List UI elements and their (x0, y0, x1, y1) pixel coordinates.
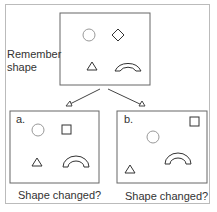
arrow-b (108, 89, 142, 105)
circle-icon (83, 29, 95, 41)
arrow-a (68, 89, 100, 105)
diagram-canvas (0, 0, 217, 212)
panel-b-label: b. (124, 113, 133, 126)
panel-a-caption: Shape changed? (18, 189, 101, 201)
remember-label: Remember shape (7, 48, 61, 74)
arch-icon (63, 156, 89, 167)
panel-b-caption: Shape changed? (125, 190, 208, 202)
triangle-icon (87, 62, 97, 70)
diamond-icon (112, 29, 124, 41)
circle-icon (32, 124, 44, 136)
panel-a-label: a. (16, 113, 25, 126)
square-icon (62, 125, 71, 134)
arch-icon (115, 63, 141, 71)
arch-icon (165, 153, 191, 164)
square-icon (190, 117, 199, 126)
circle-icon (147, 131, 159, 143)
triangle-icon (32, 158, 42, 166)
memory-box (60, 13, 150, 85)
triangle-icon (125, 165, 135, 173)
